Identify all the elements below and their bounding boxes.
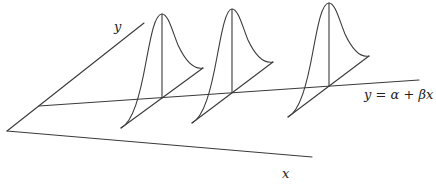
regression-line xyxy=(39,80,419,106)
x-axis xyxy=(7,131,312,157)
y-axis-label: y xyxy=(114,19,121,34)
density-curve-3 xyxy=(288,3,369,117)
regression-equation-label: y = α + βx xyxy=(364,87,433,102)
density-curve-2 xyxy=(192,9,273,123)
y-axis xyxy=(7,23,144,131)
x-axis-label: x xyxy=(282,166,289,181)
